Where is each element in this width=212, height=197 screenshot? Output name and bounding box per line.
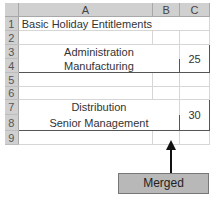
spreadsheet-grid: A B C 1 Basic Holiday Entitlements 2 3 A… <box>5 3 210 149</box>
cell-a9[interactable] <box>18 131 152 145</box>
column-header-b[interactable]: B <box>152 3 179 17</box>
row-header-3[interactable]: 3 <box>5 45 18 59</box>
row-header-9[interactable]: 9 <box>5 131 18 145</box>
row-header-2[interactable]: 2 <box>5 31 18 45</box>
row-header-7[interactable]: 7 <box>5 100 18 115</box>
cell-c1[interactable] <box>180 17 210 31</box>
cell-b2[interactable] <box>152 31 179 45</box>
merged-cell-c7-c8[interactable]: 30 <box>180 100 210 131</box>
merged-cell-a3-b3[interactable]: Administration <box>18 45 179 59</box>
cell-a2[interactable] <box>18 31 152 45</box>
column-header-c[interactable]: C <box>180 3 210 17</box>
row-header-8[interactable]: 8 <box>5 115 18 131</box>
cell-table: A B C 1 Basic Holiday Entitlements 2 3 A… <box>5 3 210 145</box>
cell-c2[interactable] <box>180 31 210 45</box>
column-header-a[interactable]: A <box>18 3 152 17</box>
row-header-4[interactable]: 4 <box>5 59 18 73</box>
row-header-1[interactable]: 1 <box>5 17 18 31</box>
merged-cell-a8-b8[interactable]: Senior Management <box>18 115 179 131</box>
cell-b5[interactable] <box>152 73 179 87</box>
cell-a1-title[interactable]: Basic Holiday Entitlements <box>18 17 152 31</box>
cell-b1[interactable] <box>152 17 179 31</box>
cell-a5[interactable] <box>18 73 152 87</box>
row-header-6[interactable]: 6 <box>5 87 18 100</box>
cell-c5[interactable] <box>180 73 210 87</box>
callout-arrow-line <box>170 142 172 174</box>
select-all-corner[interactable] <box>5 3 18 17</box>
merged-cell-a4-b4[interactable]: Manufacturing <box>18 59 179 73</box>
cell-a6[interactable] <box>18 87 152 100</box>
cell-c6[interactable] <box>180 87 210 100</box>
merged-callout-label: Merged <box>118 173 209 194</box>
cell-c9[interactable] <box>180 131 210 145</box>
row-header-5[interactable]: 5 <box>5 73 18 87</box>
cell-b6[interactable] <box>152 87 179 100</box>
merged-cell-a7-b7[interactable]: Distribution <box>18 100 179 115</box>
merged-cell-c3-c4[interactable]: 25 <box>180 45 210 73</box>
